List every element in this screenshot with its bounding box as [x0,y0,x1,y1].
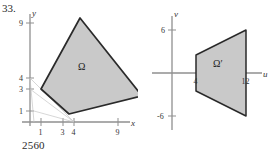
region-omega-label: Ω [78,61,85,72]
u-tick-label-12: 12 [242,77,250,86]
region-omega [41,18,138,114]
uv-plot-svg: 4 12 6 -6 v u Ω′ [148,8,270,136]
y-tick-label-9: 9 [19,19,23,28]
region-omega-prime-label: Ω′ [213,58,223,69]
uv-plane-plot: 4 12 6 -6 v u Ω′ [148,8,270,136]
y-axis-label: y [31,8,36,18]
x-axis-label: x [130,118,135,128]
x-tick-label-9: 9 [116,128,120,136]
v-tick-label-6: 6 [161,26,165,35]
problem-number: 33. [2,2,16,14]
y-tick-label-3: 3 [19,85,23,94]
x-tick-label-4: 4 [72,128,76,136]
u-axis-label: u [263,69,268,79]
x-tick-label-3: 3 [61,128,65,136]
y-tick-label-1: 1 [19,107,23,116]
y-tick-label-4: 4 [19,74,23,83]
figure-caption: 2560 [22,139,45,151]
x-tick-label-1: 1 [39,128,43,136]
v-tick-label-minus-6: -6 [157,112,164,121]
xy-plot-svg: 1 3 4 9 1 3 4 9 y x Ω [18,8,138,136]
region-omega-prime [196,30,246,116]
v-axis-label: v [174,9,178,19]
xy-plane-plot: 1 3 4 9 1 3 4 9 y x Ω [18,8,138,136]
u-tick-label-4: 4 [194,77,198,86]
figure-container: 33. 1 3 4 9 [0,0,273,159]
